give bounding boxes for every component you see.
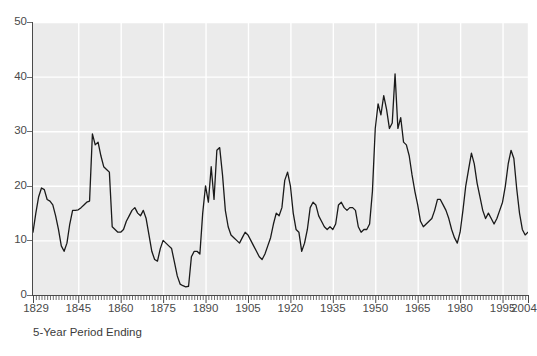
- y-tick-label: 40: [3, 71, 27, 83]
- y-tick-mark: [27, 186, 32, 187]
- y-tick-mark: [27, 22, 32, 23]
- y-tick-label: 20: [3, 180, 27, 192]
- y-axis-spine: [32, 22, 33, 296]
- y-tick-mark: [27, 131, 32, 132]
- x-axis-tick-labels: 1829184518601875189019051920193519501965…: [0, 302, 531, 318]
- y-tick-label: 10: [3, 234, 27, 246]
- data-line-series: [33, 74, 528, 287]
- x-axis-minor-ticks: [0, 296, 531, 304]
- y-tick-mark: [27, 295, 32, 296]
- plot-svg: [33, 22, 528, 295]
- plot-area: [33, 22, 528, 295]
- y-tick-label: 50: [3, 16, 27, 28]
- x-axis-title: 5-Year Period Ending: [33, 326, 142, 339]
- y-tick-mark: [27, 240, 32, 241]
- horizontal-gridlines: [33, 23, 528, 241]
- y-tick-label: 30: [3, 125, 27, 137]
- y-tick-mark: [27, 77, 32, 78]
- vertical-gridlines: [79, 22, 528, 295]
